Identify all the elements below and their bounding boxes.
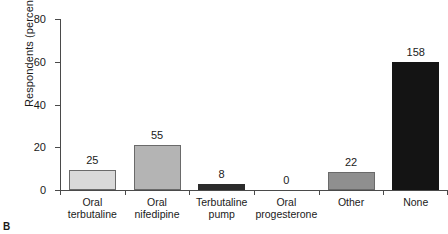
x-label-line2: pump [190,208,253,220]
x-tick-4 [319,190,320,195]
y-tick-label-0: 0 [40,185,46,196]
x-tick-3 [254,190,255,195]
x-label-oral-progesterone: Oral progesterone [254,196,319,220]
bar-cell-oral-terbutaline: 25 [60,19,125,190]
x-tick-5 [383,190,384,195]
x-tick-1 [125,190,126,195]
x-axis-category-labels: Oral terbutaline Oral nifedipine Terbuta… [60,196,448,220]
y-tick-label-60: 60 [34,57,46,68]
x-label-oral-terbutaline: Oral terbutaline [60,196,125,220]
x-label-terbutaline-pump: Terbutaline pump [189,196,254,220]
x-label-line1: None [384,196,447,208]
bar-value-label: 22 [319,157,384,168]
x-label-line1: Other [320,196,383,208]
x-label-line2: progesterone [255,208,318,220]
bar-value-label: 8 [189,169,254,180]
panel-label: B [3,221,10,232]
bar-oral-nifedipine [134,145,181,190]
bar-none [392,62,439,190]
x-label-line2: nifedipine [126,208,189,220]
bar-other [328,172,375,190]
x-label-other: Other [319,196,384,220]
x-tick-2 [189,190,190,195]
y-tick-label-20: 20 [34,142,46,153]
bar-value-label: 158 [383,47,448,58]
x-label-line1: Oral [126,196,189,208]
bar-oral-terbutaline [69,170,116,190]
bar-cell-other: 22 [319,19,384,190]
x-label-oral-nifedipine: Oral nifedipine [125,196,190,220]
y-tick-label-40: 40 [34,100,46,111]
bar-series: 25 55 8 0 22 158 [60,19,448,190]
x-label-line2: terbutaline [61,208,124,220]
bar-cell-terbutaline-pump: 8 [189,19,254,190]
plot-area: 80 60 40 20 0 25 55 [60,19,448,190]
bar-cell-oral-progesterone: 0 [254,19,319,190]
bar-value-label: 55 [125,130,190,141]
bar-value-label: 25 [60,155,125,166]
x-label-none: None [383,196,448,220]
x-label-line1: Terbutaline [190,196,253,208]
x-label-line1: Oral [61,196,124,208]
y-tick-label-80: 80 [34,14,46,25]
x-tick-0 [60,190,61,195]
bar-cell-oral-nifedipine: 55 [125,19,190,190]
bar-chart-figure: Respondents (percent) 80 60 40 20 0 25 [0,0,448,234]
bar-value-label: 0 [254,175,319,186]
bar-cell-none: 158 [383,19,448,190]
bar-terbutaline-pump [198,184,245,190]
x-label-line1: Oral [255,196,318,208]
